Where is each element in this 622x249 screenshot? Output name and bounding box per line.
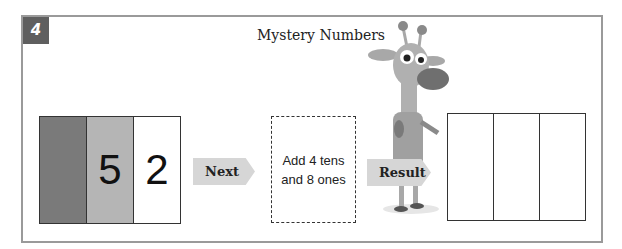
result-label: Result: [379, 165, 426, 180]
next-arrow: Next: [193, 158, 255, 185]
instruction-box: Add 4 tens and 8 ones: [271, 116, 356, 223]
result-ones-cell[interactable]: [539, 114, 585, 220]
result-arrow: Result: [367, 159, 431, 186]
start-place-value-chart: 5 2: [39, 116, 181, 224]
exercise-number-badge: 4: [23, 17, 49, 44]
next-label: Next: [205, 164, 239, 179]
instruction-line-2: and 8 ones: [281, 170, 345, 189]
result-place-value-chart: [447, 113, 586, 221]
instruction-line-1: Add 4 tens: [281, 151, 345, 170]
hundreds-cell: [40, 117, 86, 223]
result-hundreds-cell[interactable]: [448, 114, 493, 220]
result-tens-cell[interactable]: [493, 114, 539, 220]
tens-cell: 5: [86, 117, 133, 223]
ones-cell: 2: [133, 117, 180, 223]
exercise-frame: 4 Mystery Numbers 5 2 Next Add 4 tens an…: [21, 15, 603, 243]
